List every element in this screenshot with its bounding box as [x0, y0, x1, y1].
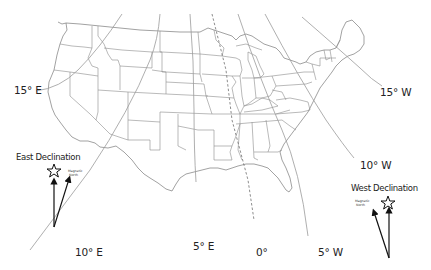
label-10e: 10° E — [75, 246, 103, 258]
star-icon — [381, 196, 395, 209]
us-declination-map — [0, 0, 431, 270]
isogonic-10e — [30, 14, 160, 250]
state-borders — [54, 26, 340, 160]
east-declination-title: East Declination — [16, 152, 80, 162]
east-declination-arrows — [47, 164, 69, 227]
label-15e: 15° E — [14, 84, 42, 96]
label-0: 0° — [256, 246, 268, 258]
isogonic-5e — [190, 14, 196, 182]
east-magnetic-north-label: Magnetic North — [68, 169, 83, 177]
north-label: North — [68, 173, 83, 177]
west-declination-arrows — [374, 196, 395, 258]
isogonic-15e — [36, 14, 122, 91]
isogonic-lines — [30, 14, 382, 250]
west-declination-title: West Declination — [351, 183, 418, 193]
label-5e: 5° E — [193, 240, 214, 252]
west-magnetic-north-label: Magnetic North — [355, 199, 370, 207]
label-15w: 15° W — [380, 86, 411, 98]
magnetic-north-arrow — [54, 179, 69, 227]
label-5w: 5° W — [318, 246, 343, 258]
us-outline — [48, 20, 364, 192]
magnetic-north-arrow — [374, 212, 389, 258]
north-label: North — [355, 203, 370, 207]
star-icon — [47, 164, 61, 177]
isogonic-15w — [302, 17, 382, 86]
label-10w: 10° W — [360, 159, 391, 171]
